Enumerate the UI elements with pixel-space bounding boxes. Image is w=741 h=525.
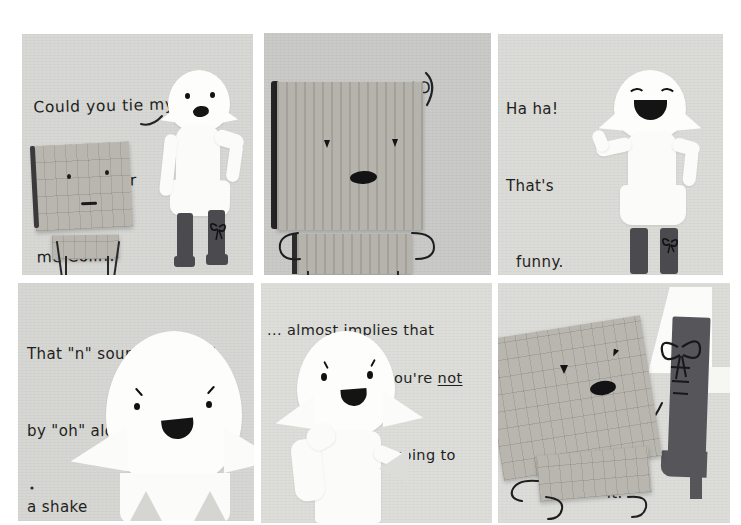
- colin-mouth: [81, 202, 97, 206]
- pauline-right-eye: [367, 371, 373, 379]
- panel-3-caption: Ha ha! That's funny. The way you said "N…: [506, 46, 585, 275]
- comic-panel-4: That "n" sound followed by "oh" along wi…: [18, 283, 254, 521]
- pauline-head-point-right: [383, 391, 423, 427]
- character-pauline: [152, 70, 252, 275]
- pauline-left-eye: [185, 93, 190, 99]
- pauline-head-point-left: [597, 107, 625, 133]
- colin-leg-left-lower: [65, 256, 67, 275]
- pauline-head-point-right: [675, 107, 703, 133]
- pauline-right-boot-heel: [206, 254, 228, 265]
- caption-underlined-word: not: [438, 370, 463, 386]
- pauline-head-point-left: [274, 396, 316, 433]
- colin-lower-body: [297, 234, 412, 274]
- comic-panel-2: NO: [264, 33, 491, 275]
- character-pauline-closeup: [96, 331, 254, 521]
- character-pauline: [590, 70, 710, 275]
- pauline-left-eye: [321, 373, 327, 381]
- ink-speck: [29, 485, 35, 491]
- pauline-left-boot-heel: [174, 256, 195, 267]
- pauline-boot-heel: [690, 465, 702, 499]
- colin-leg-right: [397, 271, 399, 275]
- shoelace-bow-icon: [659, 233, 683, 257]
- colin-left-eye: [67, 174, 71, 179]
- colin-body: [277, 82, 423, 230]
- arm-mark-left: [504, 475, 544, 505]
- pauline-left-eye: [134, 403, 140, 410]
- arm-mark-left: [272, 229, 306, 265]
- arm-mark-right: [408, 229, 444, 267]
- comic-panel-6: You can stop now Pauline. I've done it.: [498, 283, 730, 523]
- speech-tail-mark: [422, 71, 442, 109]
- colin-body: [32, 142, 133, 232]
- colin-right-eye: [105, 170, 109, 175]
- pauline-right-arm-lower: [682, 147, 699, 186]
- leg-mark-right: [624, 493, 658, 523]
- caption-line: funny.: [506, 250, 585, 275]
- colin-leg-left: [307, 271, 309, 275]
- colin-lower-body: [52, 234, 119, 259]
- pauline-right-eye: [206, 401, 212, 408]
- comic-strip: Could you tie my Shoelace for me Colin?: [0, 0, 741, 525]
- pauline-skirt: [620, 185, 686, 225]
- leg-mark-left: [542, 495, 576, 523]
- caption-line: That's: [506, 174, 585, 200]
- shoelace-bow-icon: [207, 218, 231, 244]
- comic-panel-1: Could you tie my Shoelace for me Colin?: [22, 34, 253, 275]
- pauline-left-boot: [630, 228, 648, 274]
- comic-panel-3: Ha ha! That's funny. The way you said "N…: [498, 34, 723, 275]
- pauline-right-eye: [210, 92, 215, 98]
- character-pauline: [279, 331, 419, 523]
- comic-panel-5: ... almost implies that you're not going…: [261, 283, 492, 523]
- colin-leg-right-lower: [107, 256, 109, 275]
- caption-line: Ha ha!: [506, 97, 585, 123]
